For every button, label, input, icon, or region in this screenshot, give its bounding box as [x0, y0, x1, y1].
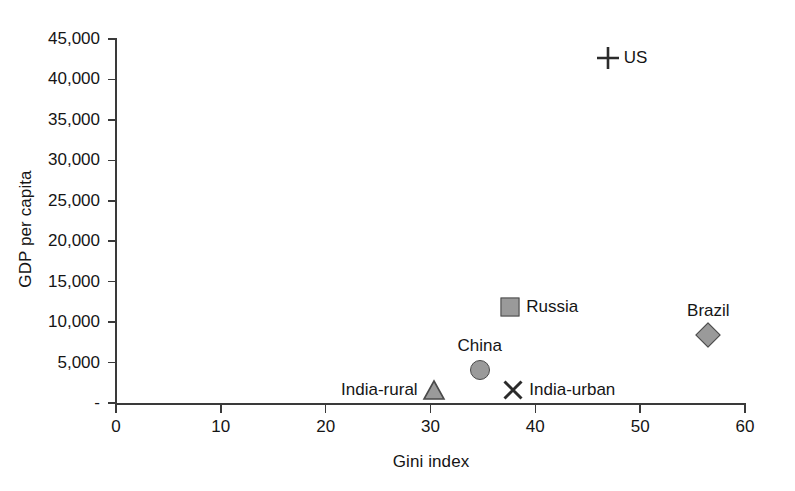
data-point-label-us: US [624, 48, 648, 68]
data-point-label-russia: Russia [526, 297, 578, 317]
x-tick-mark [744, 404, 746, 413]
data-point-label-china: China [458, 336, 502, 356]
x-tick-mark [535, 404, 537, 413]
y-tick-mark [108, 362, 116, 364]
data-point-label-brazil: Brazil [687, 301, 730, 321]
x-tick-label: 0 [86, 417, 146, 437]
x-tick-mark [325, 404, 327, 413]
y-tick-label: 15,000 [0, 272, 100, 292]
data-point-marker-china[interactable] [470, 360, 490, 380]
data-point-label-india-rural: India-rural [341, 380, 418, 400]
y-tick-label: 45,000 [0, 29, 100, 49]
x-tick-mark [639, 404, 641, 413]
y-tick-label: 25,000 [0, 191, 100, 211]
x-axis-title: Gini index [116, 452, 746, 472]
data-point-marker-brazil[interactable] [696, 322, 721, 347]
y-tick-label: 20,000 [0, 231, 100, 251]
y-tick-mark [108, 160, 116, 162]
y-tick-mark [108, 119, 116, 121]
x-tick-mark [115, 404, 117, 413]
y-tick-mark [108, 240, 116, 242]
x-tick-label: 60 [715, 417, 775, 437]
data-point-label-india-urban: India-urban [529, 380, 615, 400]
y-tick-label: 30,000 [0, 150, 100, 170]
y-tick-mark [108, 321, 116, 323]
y-tick-label: 5,000 [0, 353, 100, 373]
y-axis-line [115, 38, 117, 404]
data-point-marker-india-urban[interactable] [501, 378, 525, 402]
x-tick-mark [430, 404, 432, 413]
y-tick-label: 35,000 [0, 110, 100, 130]
x-tick-label: 50 [610, 417, 670, 437]
data-point-marker-russia[interactable] [501, 297, 520, 316]
y-tick-label: 10,000 [0, 312, 100, 332]
data-point-marker-us[interactable] [596, 46, 620, 70]
y-tick-label: 40,000 [0, 69, 100, 89]
y-tick-label: - [0, 393, 100, 413]
x-tick-label: 20 [296, 417, 356, 437]
x-tick-label: 40 [505, 417, 565, 437]
x-tick-label: 30 [401, 417, 461, 437]
y-tick-mark [108, 200, 116, 202]
data-point-marker-india-rural[interactable] [422, 378, 446, 402]
y-tick-mark [108, 38, 116, 40]
y-tick-mark [108, 79, 116, 81]
y-tick-mark [108, 281, 116, 283]
x-tick-label: 10 [191, 417, 251, 437]
x-tick-mark [220, 404, 222, 413]
scatter-chart: GDP per capita Gini index -5,00010,00015… [0, 0, 795, 491]
